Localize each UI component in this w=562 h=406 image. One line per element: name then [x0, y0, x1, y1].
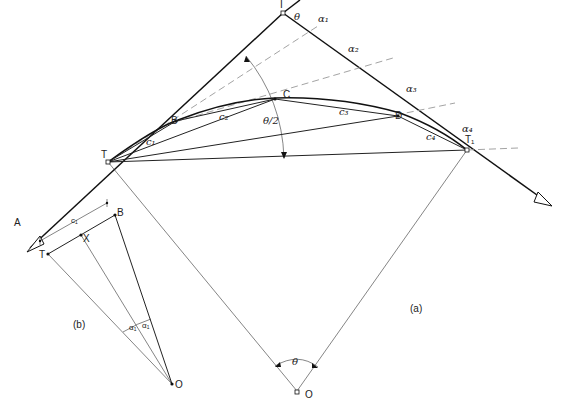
label-alpha3: α₃	[406, 83, 417, 94]
label-b-c1: c₁	[71, 216, 78, 225]
label-center-theta: θ	[292, 356, 298, 367]
label-alpha4: α₄	[462, 123, 473, 134]
arrow-end-icon	[534, 192, 552, 206]
dimension-point-right	[106, 202, 108, 204]
label-c3: c₃	[339, 106, 349, 117]
label-I: I	[280, 0, 283, 10]
panel-b: c₁ T X B O α₁ α₁ (b)	[39, 199, 183, 390]
label-b-O: O	[175, 379, 183, 390]
half-theta-arrow-bottom-icon	[281, 152, 287, 159]
dimension-point-left	[39, 240, 41, 242]
long-chord-T-T1	[108, 150, 467, 162]
label-b-X: X	[83, 233, 90, 244]
label-half-theta: θ/2	[263, 115, 279, 126]
label-theta: θ	[294, 11, 300, 22]
label-panel-a: (a)	[410, 303, 422, 314]
label-c2: c₂	[219, 111, 229, 122]
label-b-alpha-left: α₁	[129, 323, 137, 332]
label-panel-b: (b)	[73, 319, 85, 330]
line-X-O	[81, 235, 172, 384]
forward-tangent-line	[283, 13, 544, 200]
label-b-T: T	[39, 249, 45, 260]
line-T-O	[48, 254, 172, 384]
point-T-marker	[106, 160, 110, 164]
center-theta-arrow-right-icon	[312, 363, 318, 368]
label-O: O	[305, 389, 313, 400]
dashed-tangent-D	[396, 103, 455, 115]
label-T: T	[101, 149, 107, 160]
label-T1: T₁	[465, 134, 475, 145]
line-B-O	[115, 215, 172, 384]
point-O-b-marker	[170, 382, 173, 385]
label-c4: c₄	[426, 131, 436, 142]
radius-T-O	[108, 162, 297, 391]
label-c1: c₁	[146, 136, 156, 147]
label-b-B: B	[117, 207, 124, 218]
center-theta-arrow-left-icon	[275, 362, 281, 367]
radius-T1-O	[297, 150, 467, 391]
curve-setting-diagram: I θ α₁ α₂ α₃ α₄ T T₁ A B C D O c₁ c₂ c₃ …	[0, 0, 562, 406]
label-alpha2: α₂	[348, 43, 359, 54]
panel-a: I θ α₁ α₂ α₃ α₄ T T₁ A B C D O c₁ c₂ c₃ …	[14, 0, 552, 400]
point-I-marker	[281, 11, 285, 15]
label-B: B	[171, 115, 178, 126]
label-A: A	[14, 217, 21, 228]
point-O-marker	[295, 390, 299, 394]
label-C: C	[283, 89, 290, 100]
point-C-marker	[273, 97, 276, 100]
point-T-b-marker	[46, 252, 49, 255]
half-theta-arc	[246, 56, 284, 158]
point-T1-marker	[465, 148, 469, 152]
label-D: D	[395, 110, 402, 121]
chord-c1	[108, 121, 176, 162]
label-b-alpha-right: α₁	[142, 321, 150, 330]
label-alpha1: α₁	[318, 13, 329, 24]
